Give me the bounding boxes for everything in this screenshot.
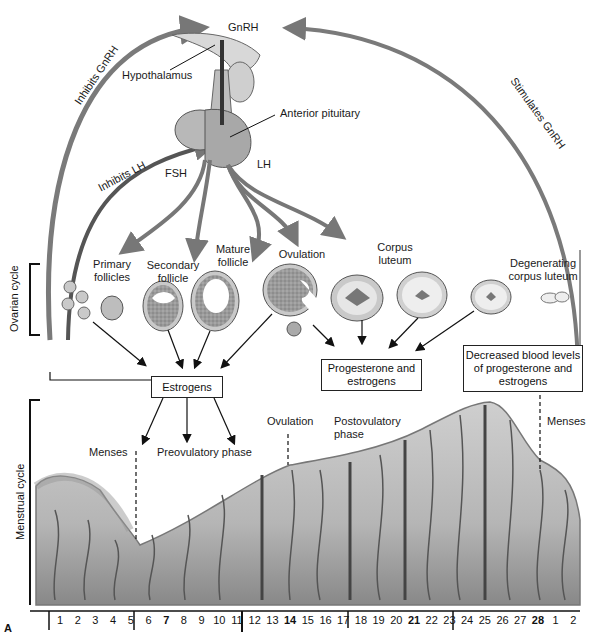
day-tick: 2 xyxy=(563,614,583,626)
primary-follicles xyxy=(62,281,123,320)
menstrual-cycle-label: Menstrual cycle xyxy=(14,464,26,540)
figure-label: A xyxy=(4,622,12,634)
lh-label: LH xyxy=(257,158,271,171)
degenerating-corpus-luteum-label: Degeneratingcorpus luteum xyxy=(503,257,583,283)
stimulates-gnrh-arrow xyxy=(290,28,578,370)
secondary-follicle xyxy=(143,281,183,331)
secondary-follicle-label: Secondaryfollicle xyxy=(138,259,208,285)
ovulation-stage-label: Ovulation xyxy=(272,248,332,261)
primary-follicles-label: Primaryfollicles xyxy=(82,258,142,284)
diagram-artwork xyxy=(0,0,603,644)
progesterone-estrogens-box: Progesterone andestrogens xyxy=(321,359,422,391)
hypothalamus-label: Hypothalamus xyxy=(122,69,192,82)
menses-left-label: Menses xyxy=(89,446,128,459)
degenerating-corpus-luteum xyxy=(471,280,569,314)
postovulatory-label: Postovulatoryphase xyxy=(334,415,401,441)
menses-right-label: Menses xyxy=(547,415,586,428)
pituitary-illustration xyxy=(172,33,260,167)
ovulation-follicle xyxy=(263,264,318,336)
endometrium-illustration xyxy=(36,402,580,605)
corpus-luteum-label: Corpusluteum xyxy=(370,241,420,267)
corpus-luteum xyxy=(331,272,447,321)
anterior-pituitary-label: Anterior pituitary xyxy=(280,107,360,120)
preovulatory-label: Preovulatory phase xyxy=(157,446,252,459)
ovulation-phase-label: Ovulation xyxy=(267,415,313,428)
estrogens-box: Estrogens xyxy=(151,376,223,398)
ovarian-cycle-label: Ovarian cycle xyxy=(8,265,20,332)
decreased-levels-box: Decreased blood levelsof progesterone an… xyxy=(463,345,583,392)
mature-follicle-label: Maturefollicle xyxy=(208,243,258,269)
gnrh-label: GnRH xyxy=(228,21,259,34)
fsh-label: FSH xyxy=(165,167,187,180)
